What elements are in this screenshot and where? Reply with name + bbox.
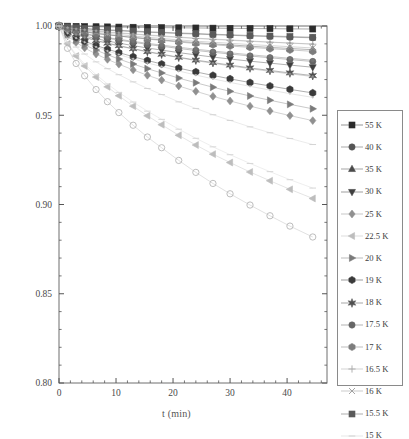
legend-item-label: 22.5 K bbox=[364, 232, 388, 241]
marker-triangle-right bbox=[193, 79, 199, 86]
legend-marker-cross-icon bbox=[340, 385, 364, 397]
marker-triangle-left bbox=[246, 169, 252, 176]
x-tick-label: 0 bbox=[57, 388, 62, 398]
marker-triangle-left bbox=[192, 142, 198, 149]
marker-triangle-right bbox=[247, 93, 253, 100]
legend-item[interactable]: 35 K bbox=[340, 158, 400, 180]
marker-square bbox=[193, 30, 199, 36]
marker-dot-line bbox=[268, 55, 271, 58]
marker-plus bbox=[348, 366, 355, 373]
x-tick-label: 40 bbox=[282, 388, 292, 398]
marker-hexagon bbox=[349, 343, 355, 350]
marker-circle bbox=[349, 144, 355, 150]
legend-marker-square-icon bbox=[340, 119, 364, 131]
marker-dot-line bbox=[228, 51, 231, 54]
marker-dot bbox=[84, 29, 86, 31]
marker-dot-dash bbox=[95, 46, 97, 48]
legend-item[interactable]: 16.5 K bbox=[340, 358, 400, 380]
legend-item[interactable]: 40 K bbox=[340, 136, 400, 158]
marker-square bbox=[287, 34, 293, 40]
marker-diamond bbox=[210, 92, 216, 100]
marker-triangle-left bbox=[348, 233, 354, 240]
legend-item[interactable]: 17.5 K bbox=[340, 314, 400, 336]
marker-dot bbox=[178, 36, 180, 38]
x-tick-label: 30 bbox=[225, 388, 235, 398]
marker-square bbox=[349, 411, 355, 417]
marker-dot bbox=[95, 30, 97, 32]
marker-hexagon bbox=[310, 48, 316, 55]
legend-item[interactable]: 18 K bbox=[340, 292, 400, 314]
marker-square bbox=[193, 25, 199, 31]
marker-dot bbox=[75, 33, 77, 35]
legend-item-label: 55 K bbox=[364, 121, 382, 130]
marker-dot bbox=[195, 37, 197, 39]
marker-square bbox=[247, 25, 253, 31]
y-tick-label: 0.80 bbox=[35, 378, 52, 388]
marker-dot bbox=[312, 76, 314, 78]
legend-item[interactable]: 19 K bbox=[340, 269, 400, 291]
marker-dot-dash bbox=[75, 37, 77, 39]
marker-square bbox=[287, 26, 293, 32]
marker-dot-dash bbox=[84, 41, 86, 43]
marker-dot-line bbox=[194, 48, 197, 51]
legend-item-label: 18 K bbox=[364, 298, 382, 307]
legend-marker-hexagon-icon bbox=[340, 274, 364, 286]
x-axis-label: t (min) bbox=[162, 408, 191, 419]
marker-triangle-down bbox=[309, 65, 316, 71]
marker-dot-dash bbox=[229, 82, 231, 84]
marker-dot-line bbox=[83, 32, 86, 35]
legend-item[interactable]: 17 K bbox=[340, 336, 400, 358]
marker-hexagon bbox=[247, 79, 253, 86]
marker-dot-dash bbox=[212, 78, 214, 80]
marker-dot-line bbox=[94, 34, 97, 37]
legend-item[interactable]: 25 K bbox=[340, 203, 400, 225]
marker-dot bbox=[269, 70, 271, 72]
marker-diamond bbox=[287, 112, 293, 120]
legend-item[interactable]: 22.5 K bbox=[340, 225, 400, 247]
marker-triangle-right bbox=[349, 255, 355, 262]
marker-circle-open bbox=[310, 234, 316, 240]
marker-square bbox=[310, 26, 316, 32]
marker-triangle-left bbox=[226, 159, 232, 166]
marker-square bbox=[210, 31, 216, 37]
legend-marker-triangle-up-icon bbox=[340, 163, 364, 175]
y-tick-label: 1.00 bbox=[35, 21, 52, 31]
marker-dot-line bbox=[177, 46, 180, 49]
marker-dot-dash bbox=[312, 97, 314, 99]
marker-dot-dash bbox=[118, 54, 120, 56]
legend-marker-triangle-left-icon bbox=[340, 230, 364, 242]
marker-square bbox=[247, 32, 253, 38]
legend-item[interactable]: 20 K bbox=[340, 247, 400, 269]
marker-diamond bbox=[227, 97, 233, 105]
marker-triangle-up bbox=[349, 166, 356, 172]
marker-square bbox=[227, 32, 233, 38]
chart-figure: 0102030400.800.850.900.951.00 M/M0 t (mi… bbox=[0, 0, 409, 439]
marker-triangle-left bbox=[175, 132, 181, 139]
legend-item[interactable]: 55 K bbox=[340, 114, 400, 136]
marker-dot bbox=[84, 36, 86, 38]
marker-dot-dash bbox=[178, 70, 180, 72]
legend-marker-triangle-right-icon bbox=[340, 252, 364, 264]
marker-dot-dash bbox=[195, 74, 197, 76]
legend-item[interactable]: 16 K bbox=[340, 380, 400, 402]
marker-dot-dash bbox=[132, 58, 134, 60]
legend-item[interactable]: 15 K bbox=[340, 425, 400, 439]
marker-square bbox=[349, 122, 355, 128]
marker-dot-line bbox=[211, 49, 214, 52]
marker-triangle-right bbox=[159, 69, 165, 76]
marker-dot bbox=[132, 48, 134, 50]
marker-square bbox=[210, 25, 216, 31]
marker-dot bbox=[212, 62, 214, 64]
marker-dot-line bbox=[117, 38, 120, 41]
marker-triangle-right bbox=[176, 75, 182, 82]
marker-square bbox=[159, 29, 165, 35]
legend-item[interactable]: 30 K bbox=[340, 181, 400, 203]
marker-dot-dash bbox=[249, 86, 251, 88]
marker-triangle-left bbox=[266, 177, 272, 184]
legend-marker-circle-icon bbox=[340, 141, 364, 153]
marker-dot bbox=[75, 28, 77, 30]
legend-item[interactable]: 15.5 K bbox=[340, 402, 400, 424]
marker-diamond bbox=[193, 87, 199, 95]
marker-dot-line bbox=[160, 43, 163, 46]
marker-dot-line bbox=[106, 36, 109, 39]
